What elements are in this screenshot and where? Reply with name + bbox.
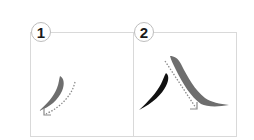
step-2-na-stroke — [170, 56, 229, 106]
step-2-pie-stroke-done — [139, 73, 168, 110]
stroke-diagram — [0, 0, 254, 140]
